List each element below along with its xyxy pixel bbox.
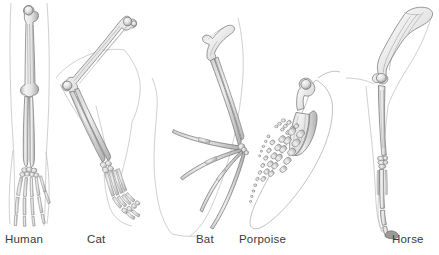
label-porpoise: Porpoise [239, 234, 286, 246]
label-human: Human [5, 234, 43, 246]
homologous-forelimbs-figure [0, 0, 439, 255]
label-bat: Bat [196, 234, 214, 246]
label-horse: Horse [392, 234, 424, 246]
label-cat: Cat [87, 234, 106, 246]
